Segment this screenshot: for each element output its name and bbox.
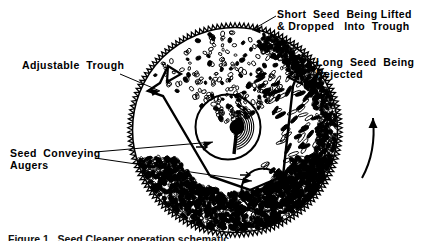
label-long-seed-line1: Long Seed Being <box>316 56 414 68</box>
seed-cleaner-figure: Adjustable Trough Seed ConveyingAugers S… <box>0 0 438 241</box>
label-seed-conveying-augers: Seed ConveyingAugers <box>10 148 101 171</box>
label-adjustable-trough: Adjustable Trough <box>22 60 124 72</box>
label-long-seed-line2: Rejected <box>316 68 363 80</box>
lower-auger <box>240 169 285 212</box>
label-seed-conveying-augers-line1: Seed Conveying <box>10 147 101 159</box>
rotation-arrow-icon <box>362 118 378 178</box>
label-long-seed: Long Seed BeingRejected <box>316 57 414 80</box>
label-short-seed-line2: & Dropped Into Trough <box>277 20 410 32</box>
figure-caption: Figure 1. Seed Cleaner operation schemat… <box>8 233 232 241</box>
upper-auger <box>196 95 261 160</box>
diagram-canvas <box>0 0 438 241</box>
label-short-seed-line1: Short Seed Being Lifted <box>277 8 412 20</box>
label-seed-conveying-augers-line2: Augers <box>10 159 49 171</box>
label-short-seed: Short Seed Being Lifted& Dropped Into Tr… <box>277 9 412 32</box>
